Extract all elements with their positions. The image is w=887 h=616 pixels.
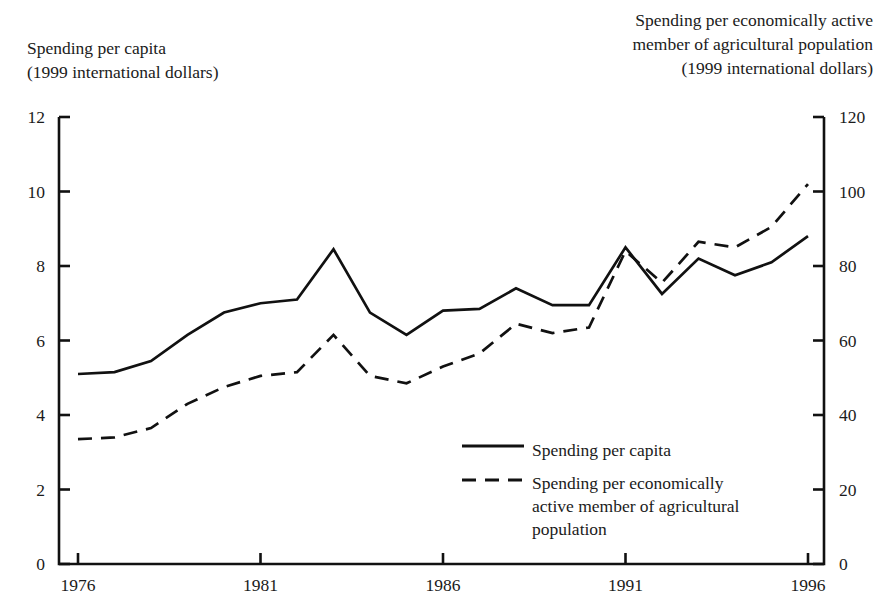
right-tick-label: 20 (839, 480, 857, 500)
line-chart-plot: 024681012 020406080100120 19761981198619… (0, 0, 887, 616)
legend-item-label-spending-per-active-member: Spending per economically active member … (532, 472, 739, 541)
left-tick-label: 2 (36, 480, 45, 500)
x-tick-label: 1991 (608, 575, 643, 595)
left-tick-label: 6 (36, 331, 45, 351)
left-tick-label: 10 (28, 182, 46, 202)
left-tick-label: 12 (28, 107, 46, 127)
left-axis-title: Spending per capita (1999 international … (27, 36, 218, 84)
x-tick-label: 1996 (791, 575, 826, 595)
x-axis-ticks: 19761981198619911996 (61, 553, 826, 595)
right-tick-label: 80 (839, 256, 857, 276)
left-tick-label: 8 (36, 256, 45, 276)
legend-item-label-spending-per-capita: Spending per capita (532, 439, 671, 462)
x-tick-label: 1976 (61, 575, 96, 595)
x-tick-label: 1981 (243, 575, 278, 595)
right-tick-label: 120 (839, 107, 866, 127)
legend-sample-lines (462, 446, 524, 480)
right-tick-label: 40 (839, 405, 857, 425)
left-tick-label: 0 (36, 554, 45, 574)
series-line-spending-per-capita (78, 236, 808, 374)
data-series-layer (78, 184, 808, 439)
chart-figure: Spending per capita (1999 international … (0, 0, 887, 616)
left-tick-label: 4 (36, 405, 45, 425)
x-tick-label: 1986 (426, 575, 461, 595)
right-tick-label: 60 (839, 331, 857, 351)
right-axis-title: Spending per economically active member … (632, 8, 873, 80)
right-tick-label: 100 (839, 182, 866, 202)
right-tick-label: 0 (839, 554, 848, 574)
right-axis-ticks: 020406080100120 (813, 107, 866, 574)
left-axis-ticks: 024681012 (28, 107, 71, 574)
